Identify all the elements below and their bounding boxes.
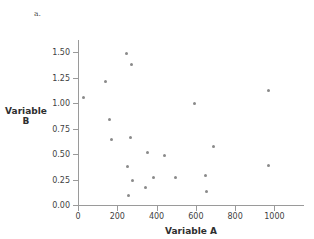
x-tick-mark <box>117 206 118 211</box>
scatter-plot-figure: a. 0.000.250.500.751.001.251.50 02004006… <box>0 0 314 239</box>
x-tick-mark <box>157 206 158 211</box>
scatter-point <box>82 96 85 99</box>
scatter-point <box>130 63 133 66</box>
scatter-point <box>205 190 208 193</box>
x-tick-label: 400 <box>139 212 175 221</box>
plot-data-area <box>78 40 300 205</box>
scatter-point <box>212 145 215 148</box>
scatter-point <box>131 179 134 182</box>
y-tick-label: 0.25 <box>40 175 70 184</box>
x-tick-mark <box>196 206 197 211</box>
scatter-point <box>108 118 111 121</box>
scatter-point <box>125 52 128 55</box>
scatter-point <box>163 154 166 157</box>
scatter-point <box>110 138 113 141</box>
x-axis-label: Variable A <box>78 226 304 236</box>
scatter-point <box>267 164 270 167</box>
scatter-point <box>127 194 130 197</box>
scatter-point <box>267 89 270 92</box>
part-label: a. <box>34 9 41 18</box>
scatter-point <box>174 176 177 179</box>
scatter-point <box>152 176 155 179</box>
scatter-point <box>193 102 196 105</box>
scatter-point <box>104 80 107 83</box>
scatter-point <box>204 174 207 177</box>
y-axis-label-line1: Variable <box>2 106 50 116</box>
y-tick-label: 0.00 <box>40 201 70 210</box>
y-tick-label: 0.50 <box>40 150 70 159</box>
x-tick-mark <box>274 206 275 211</box>
x-tick-mark <box>78 206 79 211</box>
scatter-point <box>126 165 129 168</box>
x-tick-mark <box>235 206 236 211</box>
x-tick-label: 200 <box>99 212 135 221</box>
x-tick-label: 1000 <box>256 212 292 221</box>
scatter-point <box>144 186 147 189</box>
y-tick-label: 1.25 <box>40 73 70 82</box>
y-axis-label: Variable B <box>2 106 50 126</box>
clipped-heading-fragment <box>34 0 53 2</box>
scatter-point <box>146 151 149 154</box>
x-axis-line <box>78 205 304 206</box>
scatter-point <box>129 136 132 139</box>
y-tick-label: 1.50 <box>40 48 70 57</box>
y-axis-label-line2: B <box>2 116 50 126</box>
x-tick-label: 600 <box>178 212 214 221</box>
x-tick-label: 800 <box>217 212 253 221</box>
x-tick-label: 0 <box>60 212 96 221</box>
